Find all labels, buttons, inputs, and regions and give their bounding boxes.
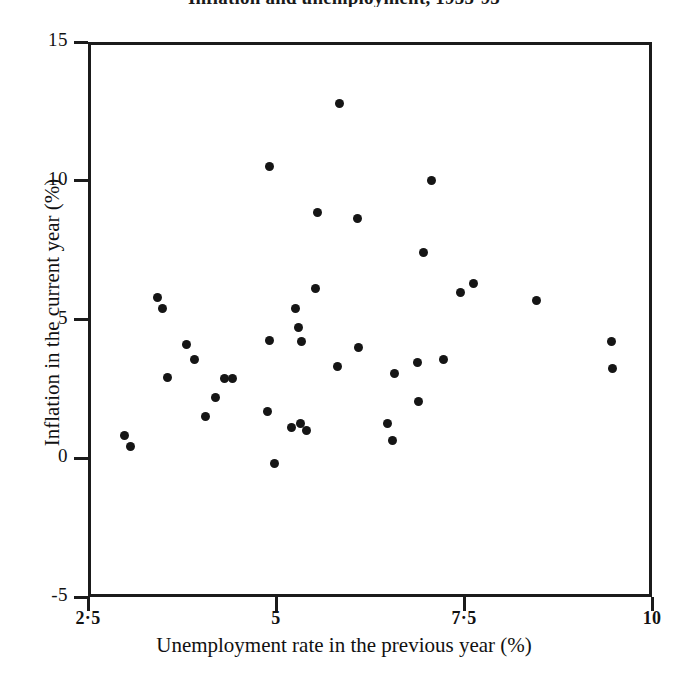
x-axis-tick-label: 7·5 <box>429 608 499 629</box>
chart-title: Inflation and unemployment, 1955-95 <box>0 0 688 7</box>
y-axis-tick <box>74 41 88 44</box>
x-axis-tick-label: 10 <box>617 608 687 629</box>
y-axis-tick <box>74 318 88 321</box>
plot-area-frame <box>88 42 652 597</box>
y-axis-tick <box>74 457 88 460</box>
x-axis-title: Unemployment rate in the previous year (… <box>0 633 688 658</box>
scatter-chart-figure: Inflation and unemployment, 1955-95 -505… <box>0 0 688 685</box>
y-axis-tick <box>74 179 88 182</box>
y-axis-title: Inflation in the current year (%) <box>40 33 65 593</box>
x-axis-tick-label: 2·5 <box>53 608 123 629</box>
x-axis-tick-label: 5 <box>241 608 311 629</box>
